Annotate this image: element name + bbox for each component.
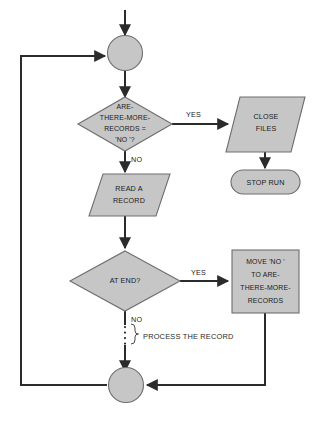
flowchart-page: ARE- THERE-MORE- RECORDS = 'NO '? CLOSE …: [0, 0, 314, 421]
edge-exit-connector-loopback-to-top-connector: [21, 56, 107, 385]
decision-more-records-line-3: RECORDS =: [104, 125, 146, 132]
read-a-record-line-2: RECORD: [113, 196, 145, 205]
flowchart-canvas: ARE- THERE-MORE- RECORDS = 'NO '? CLOSE …: [0, 0, 314, 421]
edge-move-no-loopback-to-exit-connector: [147, 313, 265, 385]
decision-more-records-line-1: ARE-: [116, 103, 133, 110]
move-no-line-4: RECORDS: [248, 297, 284, 304]
edge-label-more-records-yes: YES: [186, 110, 201, 119]
move-no-line-3: THERE-MORE-: [240, 284, 290, 291]
process-record-brace: [131, 324, 139, 344]
node-entry-connector[interactable]: [108, 36, 143, 71]
edge-label-at-end-yes: YES: [191, 268, 206, 277]
annotation-process-the-record: PROCESS THE RECORD: [143, 332, 234, 341]
close-files-line-1: CLOSE: [253, 112, 278, 121]
decision-more-records-line-4: 'NO '?: [115, 136, 135, 143]
edge-label-at-end-no: NO: [131, 315, 142, 324]
node-exit-connector[interactable]: [109, 368, 144, 403]
move-no-line-2: TO ARE-: [251, 271, 280, 278]
decision-at-end-label: AT END?: [110, 276, 141, 285]
read-a-record-line-1: READ A: [115, 184, 142, 193]
edge-label-more-records-no: NO: [131, 155, 142, 164]
move-no-line-1: MOVE 'NO ': [246, 258, 285, 265]
close-files-line-2: FILES: [256, 124, 277, 133]
stop-run-label: STOP RUN: [246, 178, 284, 187]
decision-more-records-line-2: THERE-MORE-: [100, 114, 150, 121]
